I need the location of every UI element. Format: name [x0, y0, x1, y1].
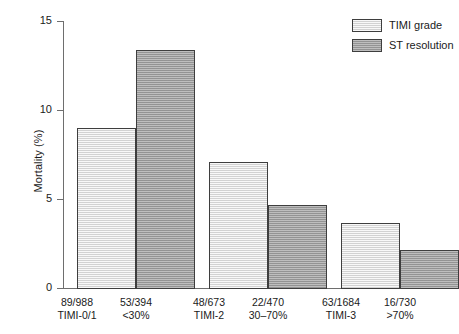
y-tick-label-5: 5 — [20, 193, 52, 204]
legend-label-st-resolution: ST resolution — [389, 40, 454, 51]
x-label-fraction: 53/394 — [99, 296, 173, 309]
x-label-fraction: 22/470 — [231, 296, 305, 309]
x-label-group: <30% — [99, 309, 173, 322]
bar-st-lt30 — [136, 50, 195, 289]
x-label-st-30-70: 22/470 30–70% — [231, 296, 305, 322]
y-tick-label-10: 10 — [20, 104, 52, 115]
bar-st-gt70 — [400, 250, 459, 289]
bar-timi-0-1 — [77, 128, 136, 289]
legend-swatch-icon-timi-grade — [352, 19, 382, 32]
legend: TIMI grade ST resolution — [352, 17, 454, 57]
legend-swatch-icon-st-resolution — [352, 39, 382, 52]
y-tick-label-0: 0 — [20, 282, 52, 293]
bar-timi-2 — [209, 162, 268, 289]
legend-item-timi-grade: TIMI grade — [352, 17, 454, 33]
plot-area — [63, 21, 442, 289]
x-label-fraction: 16/730 — [363, 296, 437, 309]
legend-item-st-resolution: ST resolution — [352, 37, 454, 53]
x-label-group: >70% — [363, 309, 437, 322]
y-tick-label-15: 15 — [20, 15, 52, 26]
bar-timi-3 — [341, 223, 400, 289]
mortality-bar-chart: Mortality (%) 15 10 5 0 89/988 TIMI-0/1 … — [0, 0, 459, 334]
x-label-st-lt30: 53/394 <30% — [99, 296, 173, 322]
x-label-group: 30–70% — [231, 309, 305, 322]
legend-label-timi-grade: TIMI grade — [389, 20, 442, 31]
bar-st-30-70 — [268, 205, 327, 289]
x-label-st-gt70: 16/730 >70% — [363, 296, 437, 322]
